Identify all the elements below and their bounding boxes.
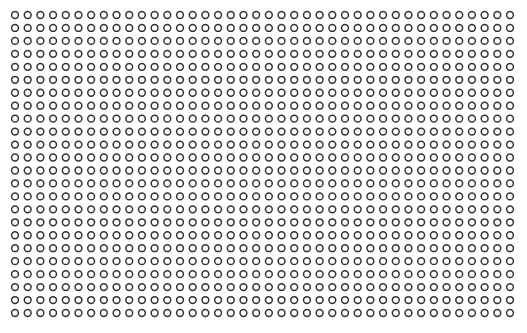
grid-circle [12, 193, 19, 200]
grid-circle [278, 258, 285, 265]
grid-circle [430, 193, 437, 200]
grid-circle [113, 154, 120, 161]
grid-circle [24, 76, 31, 83]
grid-circle [469, 232, 476, 239]
grid-circle [202, 102, 209, 109]
grid-circle [215, 154, 222, 161]
grid-circle [329, 128, 336, 135]
grid-circle [113, 297, 120, 304]
grid-circle [354, 128, 361, 135]
grid-circle [265, 115, 272, 122]
grid-circle [50, 63, 57, 70]
grid-circle [189, 271, 196, 278]
grid-circle [304, 154, 311, 161]
grid-circle [151, 180, 158, 187]
grid-circle [405, 180, 412, 187]
grid-circle [380, 102, 387, 109]
grid-circle [469, 154, 476, 161]
grid-circle [62, 219, 69, 226]
grid-circle [316, 115, 323, 122]
grid-circle [37, 63, 44, 70]
grid-circle [481, 193, 488, 200]
grid-circle [265, 219, 272, 226]
grid-circle [88, 258, 95, 265]
grid-circle [139, 297, 146, 304]
grid-circle [189, 284, 196, 291]
grid-circle [304, 284, 311, 291]
grid-circle [37, 258, 44, 265]
grid-circle [227, 76, 234, 83]
grid-circle [278, 141, 285, 148]
grid-circle [265, 38, 272, 45]
grid-circle [62, 89, 69, 96]
grid-circle [37, 25, 44, 32]
grid-circle [215, 180, 222, 187]
grid-circle [189, 89, 196, 96]
grid-circle [37, 89, 44, 96]
grid-circle [75, 38, 82, 45]
grid-circle [507, 128, 514, 135]
grid-circle [253, 206, 260, 213]
grid-circle [367, 89, 374, 96]
grid-circle [354, 193, 361, 200]
grid-circle [265, 50, 272, 57]
grid-circle [469, 25, 476, 32]
grid-circle [50, 154, 57, 161]
grid-circle [215, 115, 222, 122]
grid-circle [291, 128, 298, 135]
grid-circle [342, 245, 349, 252]
grid-circle [227, 128, 234, 135]
grid-circle [37, 76, 44, 83]
grid-circle [37, 50, 44, 57]
grid-circle [12, 206, 19, 213]
grid-circle [278, 12, 285, 19]
grid-circle [164, 25, 171, 32]
grid-circle [392, 206, 399, 213]
grid-circle [494, 258, 501, 265]
grid-circle [113, 193, 120, 200]
grid-circle [291, 115, 298, 122]
grid-circle [189, 258, 196, 265]
grid-circle [392, 50, 399, 57]
grid-circle [443, 245, 450, 252]
grid-circle [392, 128, 399, 135]
grid-circle [316, 12, 323, 19]
grid-circle [215, 76, 222, 83]
grid-circle [139, 128, 146, 135]
grid-circle [240, 154, 247, 161]
grid-circle [405, 193, 412, 200]
grid-circle [24, 38, 31, 45]
grid-circle [342, 193, 349, 200]
grid-circle [278, 284, 285, 291]
grid-circle [37, 284, 44, 291]
grid-circle [100, 284, 107, 291]
grid-circle [418, 141, 425, 148]
grid-circle [481, 12, 488, 19]
grid-circle [75, 297, 82, 304]
grid-circle [456, 115, 463, 122]
grid-circle [469, 180, 476, 187]
grid-circle [481, 50, 488, 57]
grid-circle [88, 76, 95, 83]
grid-circle [227, 219, 234, 226]
grid-circle [139, 167, 146, 174]
grid-circle [215, 102, 222, 109]
grid-circle [430, 25, 437, 32]
grid-circle [443, 180, 450, 187]
grid-circle [367, 12, 374, 19]
grid-circle [291, 63, 298, 70]
grid-circle [367, 180, 374, 187]
grid-circle [12, 63, 19, 70]
grid-circle [380, 76, 387, 83]
grid-circle [62, 76, 69, 83]
grid-circle [456, 310, 463, 317]
grid-circle [164, 284, 171, 291]
grid-circle [494, 63, 501, 70]
grid-circle [189, 128, 196, 135]
grid-circle [240, 193, 247, 200]
grid-circle [494, 297, 501, 304]
grid-circle [354, 102, 361, 109]
grid-circle [265, 12, 272, 19]
grid-circle [456, 297, 463, 304]
grid-circle [291, 258, 298, 265]
